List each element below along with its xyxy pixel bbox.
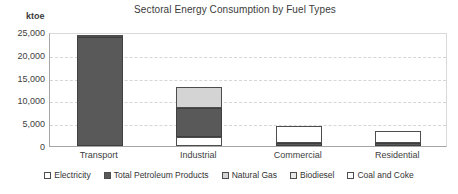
legend-item[interactable]: Coal and Coke: [347, 170, 413, 180]
legend-item-label: Biodiesel: [300, 170, 335, 180]
stacked-bar[interactable]: [77, 35, 123, 146]
plot-area: [49, 33, 447, 147]
legend-swatch-icon: [44, 172, 51, 179]
legend-item-label: Total Petroleum Products: [114, 170, 209, 180]
legend-item[interactable]: Natural Gas: [222, 170, 277, 180]
y-axis-tick-label: 0: [3, 142, 45, 152]
y-axis-tick-label: 10,000: [3, 96, 45, 106]
bar-segment[interactable]: [176, 87, 222, 108]
legend-item[interactable]: Total Petroleum Products: [104, 170, 209, 180]
bar-segment[interactable]: [375, 143, 421, 146]
y-axis-tick-label: 5,000: [3, 119, 45, 129]
legend-item[interactable]: Electricity: [44, 170, 90, 180]
x-axis-tick-label: Commercial: [274, 150, 322, 160]
bar-segment[interactable]: [176, 137, 222, 146]
y-axis-tick-label: 20,000: [3, 51, 45, 61]
bar-slot: [50, 34, 150, 146]
legend-item-label: Coal and Coke: [357, 170, 413, 180]
y-axis-unit-label: ktoe: [26, 11, 45, 21]
y-axis-tick-label: 15,000: [3, 74, 45, 84]
chart-container: Sectoral Energy Consumption by Fuel Type…: [0, 0, 458, 194]
bar-slot: [249, 34, 349, 146]
legend-swatch-icon: [290, 172, 297, 179]
x-axis-tick-label: Residential: [375, 150, 420, 160]
y-axis-tick-label: 25,000: [3, 28, 45, 38]
bar-slot: [150, 34, 250, 146]
bar-segment[interactable]: [375, 131, 421, 144]
legend-item[interactable]: Biodiesel: [290, 170, 335, 180]
chart-legend: ElectricityTotal Petroleum ProductsNatur…: [0, 170, 458, 180]
stacked-bar[interactable]: [375, 131, 421, 147]
legend-item-label: Natural Gas: [232, 170, 277, 180]
bar-segment[interactable]: [276, 143, 322, 146]
bar-segment[interactable]: [176, 108, 222, 137]
legend-item-label: Electricity: [54, 170, 90, 180]
stacked-bar[interactable]: [276, 126, 322, 147]
bar-segment[interactable]: [276, 126, 322, 143]
x-axis-tick-label: Industrial: [180, 150, 217, 160]
legend-swatch-icon: [222, 172, 229, 179]
legend-swatch-icon: [104, 172, 111, 179]
bar-slot: [349, 34, 449, 146]
stacked-bar[interactable]: [176, 87, 222, 146]
chart-title: Sectoral Energy Consumption by Fuel Type…: [110, 4, 360, 15]
bar-segment[interactable]: [77, 37, 123, 146]
x-axis-tick-label: Transport: [80, 150, 118, 160]
legend-swatch-icon: [347, 172, 354, 179]
